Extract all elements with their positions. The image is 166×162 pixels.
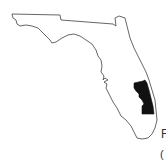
florida-outline-svg bbox=[0, 0, 166, 162]
florida-state-outline bbox=[12, 14, 157, 139]
caption-fragment-2: ( bbox=[160, 149, 164, 160]
florida-map: F ( bbox=[0, 0, 166, 162]
caption-fragment-1: F bbox=[161, 128, 166, 140]
